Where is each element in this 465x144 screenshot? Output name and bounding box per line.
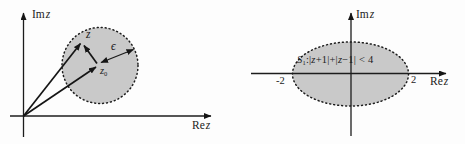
epsilon-label: ϵ: [111, 41, 116, 53]
formula-text: −1| < 4: [342, 54, 373, 65]
point-z0-label: z0: [100, 66, 107, 77]
im-variable: z: [46, 8, 50, 20]
diagram-svg: [0, 0, 465, 144]
tick-label-pos2: 2: [411, 75, 416, 86]
z0-subscript: 0: [104, 70, 107, 77]
figure-canvas: Im z Re z z z0 ϵ Im z Re z S1:|z+1|+|z−1…: [0, 0, 465, 144]
re-axis-label-left: Re z: [192, 120, 210, 132]
im-variable: z: [370, 8, 374, 20]
im-axis-label-left: Im z: [32, 9, 50, 21]
tick-label-neg2: -2: [276, 76, 285, 87]
formula-text: +1|+|: [316, 54, 338, 65]
re-variable: z: [444, 75, 448, 87]
im-axis-label-right: Im z: [356, 9, 374, 21]
re-axis-label-right: Re z: [430, 76, 448, 88]
re-prefix: Re: [192, 119, 205, 131]
point-z-label: z: [86, 29, 90, 41]
left-diagram: [10, 13, 211, 137]
im-prefix: Im: [356, 8, 369, 20]
re-variable: z: [206, 119, 210, 131]
re-prefix: Re: [430, 75, 443, 87]
region-s1-label: S1:|z+1|+|z−1| < 4: [297, 55, 373, 66]
im-prefix: Im: [32, 8, 45, 20]
